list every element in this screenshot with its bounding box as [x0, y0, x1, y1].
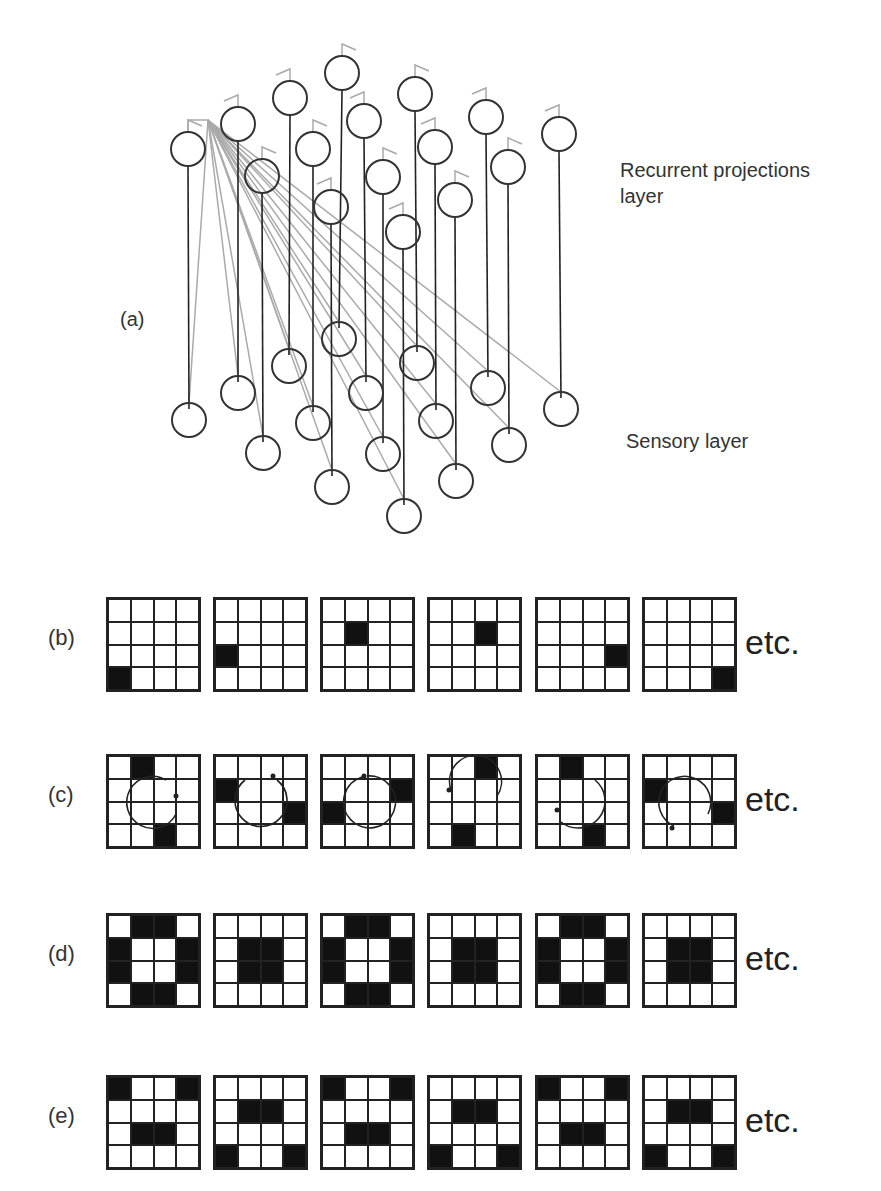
grid-cell [345, 824, 368, 847]
grid-cell [475, 824, 498, 847]
grid-cell [322, 915, 345, 938]
grid-cell [238, 779, 261, 802]
grid-cell [390, 1100, 413, 1123]
grid-cell [452, 938, 475, 961]
recurrent-neuron [398, 77, 432, 111]
grid-cell [238, 1123, 261, 1146]
grid-cell [429, 1100, 452, 1123]
grid-cell [131, 622, 154, 645]
grid-cell [583, 1123, 606, 1146]
grid-cell [644, 983, 667, 1006]
pattern-grid [642, 913, 737, 1008]
grid-cell [667, 915, 690, 938]
row-label: (e) [48, 1103, 75, 1129]
grid-cell [215, 1100, 238, 1123]
recurrent-neuron [542, 117, 576, 151]
grid-cell [322, 599, 345, 622]
grid-cell [322, 1123, 345, 1146]
grid-cell [131, 599, 154, 622]
grid-cell [131, 1145, 154, 1168]
grid-cell [644, 622, 667, 645]
etc-label: etc. [745, 780, 800, 819]
grid-cell [583, 983, 606, 1006]
grid-cell [537, 824, 560, 847]
grid-cell [390, 1145, 413, 1168]
grid-cell [176, 802, 199, 825]
grid-cell [238, 824, 261, 847]
grid-cell [429, 938, 452, 961]
recurrent-neuron [418, 130, 452, 164]
grid-cell [644, 667, 667, 690]
grid-cell [583, 802, 606, 825]
grid-cell [452, 983, 475, 1006]
grid-cell [283, 983, 306, 1006]
grid-cell [154, 622, 177, 645]
grid-cell [131, 779, 154, 802]
grid-cell [261, 983, 284, 1006]
grid-cell [537, 938, 560, 961]
grid-cell [712, 938, 735, 961]
grid-cell [154, 645, 177, 668]
row-label: (d) [48, 941, 75, 967]
grid-cell [537, 599, 560, 622]
grid-cell [390, 599, 413, 622]
grid-cell [368, 645, 391, 668]
grid-cell [176, 983, 199, 1006]
pattern-grid [427, 1075, 522, 1170]
grid-cell [322, 802, 345, 825]
grid-cell [537, 1145, 560, 1168]
grid-cell [475, 779, 498, 802]
grid-cell [583, 779, 606, 802]
grid-cell [238, 961, 261, 984]
grid-cell [583, 667, 606, 690]
grid-cell [560, 938, 583, 961]
recurrent-neuron [325, 56, 359, 90]
grid-cell [560, 961, 583, 984]
sensory-layer-label: Sensory layer [626, 428, 748, 454]
grid-cell [238, 645, 261, 668]
grid-cell [368, 938, 391, 961]
recurrent-stub [342, 44, 356, 56]
grid-cell [497, 667, 520, 690]
pattern-grid [427, 754, 522, 849]
grid-cell [497, 915, 520, 938]
recurrent-stub [421, 118, 435, 130]
grid-cell [261, 1077, 284, 1100]
grid-cell [368, 802, 391, 825]
grid-cell [560, 756, 583, 779]
grid-cell [345, 802, 368, 825]
grid-cell [667, 645, 690, 668]
pattern-grid [642, 754, 737, 849]
grid-cell [108, 1100, 131, 1123]
grid-cell [452, 802, 475, 825]
grid-cell [154, 667, 177, 690]
grid-cell [605, 1077, 628, 1100]
grid-cell [261, 779, 284, 802]
recurrent-neuron [386, 215, 420, 249]
grid-cell [261, 1123, 284, 1146]
grid-cell [322, 622, 345, 645]
grid-cell [644, 824, 667, 847]
grid-cell [215, 645, 238, 668]
grid-cell [238, 667, 261, 690]
recurrent-stub [508, 138, 522, 150]
recurrent-stub [313, 120, 327, 132]
grid-cell [712, 1145, 735, 1168]
grid-cell [429, 645, 452, 668]
grid-cell [712, 961, 735, 984]
grid-cell [497, 983, 520, 1006]
grid-cell [452, 961, 475, 984]
pattern-grid [427, 913, 522, 1008]
grid-cell [215, 983, 238, 1006]
pattern-grid [320, 597, 415, 692]
grid-cell [475, 961, 498, 984]
grid-cell [497, 824, 520, 847]
grid-cell [690, 1077, 713, 1100]
grid-cell [283, 667, 306, 690]
grid-cell [667, 1100, 690, 1123]
grid-cell [345, 1123, 368, 1146]
grid-cell [283, 622, 306, 645]
grid-cell [131, 938, 154, 961]
grid-cell [667, 622, 690, 645]
grid-cell [497, 756, 520, 779]
